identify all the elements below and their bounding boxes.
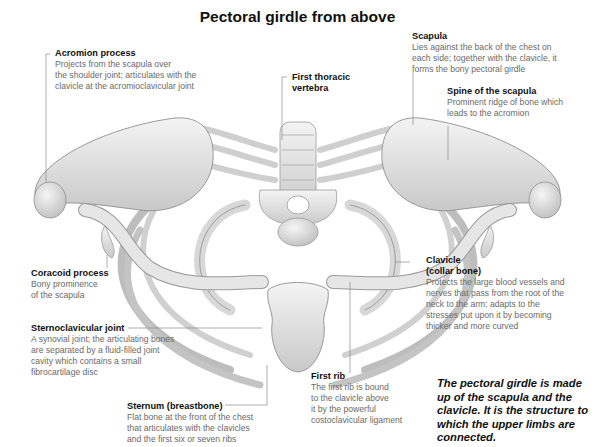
label-scapula: Scapula Lies against the back of the che… xyxy=(412,31,595,75)
vertebrae xyxy=(259,122,337,246)
label-clavicle: Clavicle (collar bone) Protects the larg… xyxy=(426,255,595,332)
label-heading: Acromion process xyxy=(55,48,285,59)
label-acromion-process: Acromion process Projects from the scapu… xyxy=(55,48,285,92)
label-sternum: Sternum (breastbone) Flat bone at the fr… xyxy=(127,401,302,445)
label-spine-of-scapula: Spine of the scapula Prominent ridge of … xyxy=(447,86,595,119)
sternum xyxy=(268,283,329,373)
label-first-rib: First rib The first rib is bound to the … xyxy=(311,371,426,426)
label-coracoid-process: Coracoid process Bony prominence of the … xyxy=(31,268,151,301)
summary-caption: The pectoral girdle is made up of the sc… xyxy=(437,377,595,445)
label-first-thoracic-vertebra: First thoracic vertebra xyxy=(292,72,382,94)
page-title: Pectoral girdle from above xyxy=(0,8,595,26)
label-sternoclavicular-joint: Sternoclavicular joint A synovial joint;… xyxy=(31,323,211,378)
